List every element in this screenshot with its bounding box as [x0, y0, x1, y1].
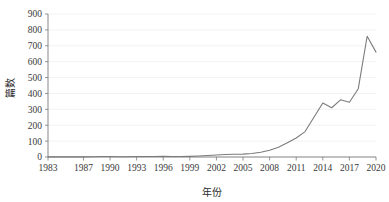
x-tick-label-2002: 2002 — [207, 163, 226, 173]
y-axis-title: 篇数 — [4, 78, 16, 98]
y-tick-label-400: 400 — [28, 89, 43, 99]
gridlines — [48, 14, 376, 157]
x-tick-label-2011: 2011 — [287, 163, 306, 173]
x-tick-label-1999: 1999 — [180, 163, 199, 173]
y-tick-label-600: 600 — [28, 57, 43, 67]
y-axis: 0100200300400500600700800900 — [28, 9, 48, 162]
x-tick-label-2008: 2008 — [260, 163, 279, 173]
x-tick-label-1987: 1987 — [74, 163, 93, 173]
chart-canvas: 0100200300400500600700800900 19831987199… — [0, 0, 389, 202]
x-tick-label-2014: 2014 — [313, 163, 332, 173]
y-tick-label-800: 800 — [28, 25, 43, 35]
x-axis: 1983198719901993199619992002200520082011… — [39, 157, 386, 173]
y-tick-label-300: 300 — [28, 105, 43, 115]
y-tick-label-200: 200 — [28, 121, 43, 131]
series-line-0 — [48, 36, 376, 157]
y-tick-label-900: 900 — [28, 9, 43, 19]
data-series — [48, 36, 376, 157]
publication-count-line-chart: 0100200300400500600700800900 19831987199… — [0, 0, 389, 202]
y-tick-label-0: 0 — [37, 152, 42, 162]
x-tick-label-1996: 1996 — [154, 163, 173, 173]
x-axis-title: 年份 — [202, 186, 222, 198]
x-tick-label-1983: 1983 — [39, 163, 58, 173]
x-tick-label-2017: 2017 — [340, 163, 359, 173]
y-tick-label-100: 100 — [28, 137, 43, 147]
x-tick-label-1993: 1993 — [127, 163, 146, 173]
y-tick-label-700: 700 — [28, 41, 43, 51]
y-tick-label-500: 500 — [28, 73, 43, 83]
x-tick-label-1990: 1990 — [101, 163, 120, 173]
x-tick-label-2020: 2020 — [367, 163, 386, 173]
x-tick-label-2005: 2005 — [234, 163, 253, 173]
